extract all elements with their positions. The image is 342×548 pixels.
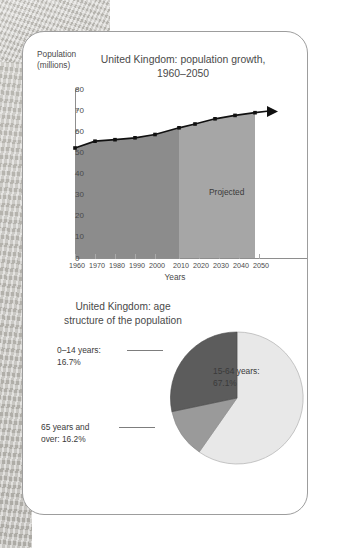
x-tick-mark xyxy=(155,254,156,259)
pie-label-15-64-line2: 67.1% xyxy=(213,378,293,390)
x-tick-label-2000: 2000 xyxy=(149,261,165,270)
x-tick-label-2050: 2050 xyxy=(253,261,269,270)
x-tick-mark xyxy=(199,254,200,259)
age-structure-chart: United Kingdom: age structure of the pop… xyxy=(23,294,308,515)
pie-label-0-14-line1: 0–14 years: xyxy=(57,345,135,357)
pie-chart-title-line2: structure of the population xyxy=(33,314,213,328)
pie-label-0-14-line2: 16.7% xyxy=(57,357,135,369)
trend-arrow-head xyxy=(267,106,278,117)
population-growth-chart: Population (millions) United Kingdom: po… xyxy=(23,32,308,294)
pie-label-15-64: 15-64 years: 67.1% xyxy=(213,366,293,389)
pie-graphic xyxy=(169,330,305,466)
x-tick-label-1990: 1990 xyxy=(129,261,145,270)
pie-label-15-64-line1: 15-64 years: xyxy=(213,366,293,378)
plot-area xyxy=(75,90,275,258)
x-tick-mark xyxy=(75,254,76,259)
pie-chart-title-line1: United Kingdom: age xyxy=(33,300,213,314)
region-projected xyxy=(179,113,255,258)
x-tick-label-2020: 2020 xyxy=(193,261,209,270)
projected-annotation: Projected xyxy=(209,187,244,197)
x-tick-label-2010: 2010 xyxy=(173,261,189,270)
x-axis-title: Years xyxy=(75,272,275,282)
x-tick-mark xyxy=(239,254,240,259)
area-series-svg xyxy=(75,90,275,258)
x-tick-mark xyxy=(179,254,180,259)
pie-label-0-14: 0–14 years: 16.7% xyxy=(57,345,135,368)
pie-label-65-over-line2: over: 16.2% xyxy=(41,434,133,446)
x-axis-line xyxy=(75,258,307,259)
x-tick-label-1970: 1970 xyxy=(89,261,105,270)
x-tick-mark xyxy=(95,254,96,259)
x-tick-mark xyxy=(259,254,260,259)
x-tick-label-2040: 2040 xyxy=(233,261,249,270)
pie-label-65-over: 65 years and over: 16.2% xyxy=(41,422,133,445)
trend-arrow-shaft xyxy=(255,111,269,113)
figure-card: Population (millions) United Kingdom: po… xyxy=(22,31,308,515)
x-tick-label-1980: 1980 xyxy=(109,261,125,270)
line-chart-title: United Kingdom: population growth, 1960–… xyxy=(67,53,299,81)
pie-label-65-over-line1: 65 years and xyxy=(41,422,133,434)
pie-chart-title: United Kingdom: age structure of the pop… xyxy=(33,300,213,328)
x-tick-mark xyxy=(115,254,116,259)
x-tick-label-1960: 1960 xyxy=(69,261,85,270)
line-chart-title-line2: 1960–2050 xyxy=(67,67,299,81)
line-chart-title-line1: United Kingdom: population growth, xyxy=(67,53,299,67)
x-tick-label-2030: 2030 xyxy=(213,261,229,270)
region-historic xyxy=(75,128,179,258)
x-tick-mark xyxy=(135,254,136,259)
x-tick-mark xyxy=(219,254,220,259)
pie-svg xyxy=(169,330,305,466)
